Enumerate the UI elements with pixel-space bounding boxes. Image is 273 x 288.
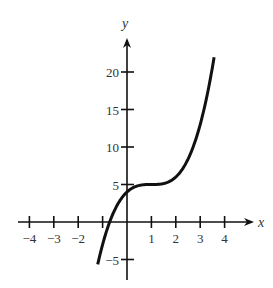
y-tick-label: 20 [106,65,119,80]
x-tick-label: −2 [71,231,85,246]
x-tick-label: 1 [148,231,155,246]
x-tick-label: 4 [221,231,228,246]
x-tick-label: 3 [197,231,204,246]
y-axis-label: y [120,16,129,31]
chart-plot: −4−3−21234−55101520 x y [0,0,273,288]
x-tick-label: 2 [173,231,180,246]
y-tick-label: 5 [113,178,120,193]
y-tick-label: 10 [106,140,119,155]
y-tick-label: −5 [105,253,119,268]
x-tick-label: −4 [22,231,36,246]
x-tick-label: −3 [47,231,61,246]
tick-labels: −4−3−21234−55101520 [22,65,228,268]
y-tick-label: 15 [106,103,119,118]
x-axis-label: x [257,215,265,230]
